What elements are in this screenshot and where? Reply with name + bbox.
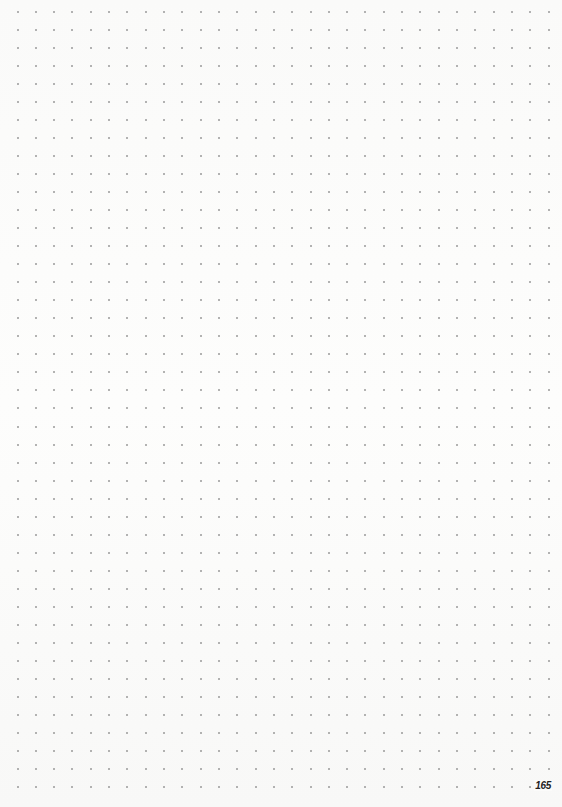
- grid-dot: [273, 768, 275, 770]
- grid-dot: [53, 119, 55, 121]
- grid-dot: [511, 660, 513, 662]
- grid-dot: [529, 191, 531, 193]
- grid-dot: [53, 353, 55, 355]
- grid-dot: [273, 83, 275, 85]
- grid-dot: [255, 588, 257, 590]
- grid-dot: [17, 209, 19, 211]
- grid-dot: [236, 155, 238, 157]
- grid-dot: [163, 426, 165, 428]
- grid-dot: [310, 227, 312, 229]
- grid-dot: [17, 552, 19, 554]
- grid-dot: [383, 335, 385, 337]
- grid-dot: [126, 317, 128, 319]
- grid-dot: [529, 642, 531, 644]
- grid-dot: [401, 768, 403, 770]
- grid-dot: [145, 281, 147, 283]
- grid-dot: [273, 11, 275, 13]
- grid-dot: [529, 714, 531, 716]
- grid-dot: [364, 335, 366, 337]
- grid-dot: [53, 245, 55, 247]
- grid-dot: [419, 353, 421, 355]
- grid-dot: [90, 768, 92, 770]
- grid-dot: [126, 624, 128, 626]
- grid-dot: [364, 462, 366, 464]
- grid-dot: [548, 65, 550, 67]
- grid-dot: [71, 353, 73, 355]
- grid-dot: [364, 768, 366, 770]
- grid-dot: [90, 480, 92, 482]
- grid-dot: [53, 155, 55, 157]
- grid-dot: [419, 768, 421, 770]
- grid-dot: [310, 498, 312, 500]
- grid-dot: [291, 227, 293, 229]
- grid-dot: [548, 480, 550, 482]
- grid-dot: [474, 29, 476, 31]
- grid-dot: [493, 155, 495, 157]
- grid-dot: [273, 227, 275, 229]
- grid-dot: [126, 191, 128, 193]
- grid-dot: [17, 444, 19, 446]
- grid-dot: [126, 426, 128, 428]
- grid-dot: [255, 227, 257, 229]
- grid-dot: [236, 263, 238, 265]
- grid-dot: [383, 29, 385, 31]
- grid-dot: [126, 750, 128, 752]
- grid-dot: [419, 389, 421, 391]
- grid-dot: [35, 317, 37, 319]
- grid-dot: [17, 101, 19, 103]
- grid-dot: [383, 642, 385, 644]
- grid-dot: [236, 209, 238, 211]
- grid-dot: [364, 534, 366, 536]
- grid-dot: [328, 696, 330, 698]
- grid-dot: [273, 371, 275, 373]
- grid-dot: [383, 732, 385, 734]
- grid-dot: [71, 714, 73, 716]
- grid-dot: [273, 137, 275, 139]
- grid-dot: [53, 299, 55, 301]
- grid-dot: [163, 335, 165, 337]
- grid-dot: [145, 371, 147, 373]
- grid-dot: [200, 137, 202, 139]
- grid-dot: [53, 750, 55, 752]
- grid-dot: [108, 407, 110, 409]
- grid-dot: [35, 552, 37, 554]
- grid-dot: [456, 516, 458, 518]
- grid-dot: [145, 173, 147, 175]
- grid-dot: [218, 552, 220, 554]
- grid-dot: [438, 389, 440, 391]
- grid-dot: [71, 786, 73, 788]
- grid-dot: [383, 660, 385, 662]
- grid-dot: [163, 209, 165, 211]
- grid-dot: [255, 119, 257, 121]
- grid-dot: [310, 47, 312, 49]
- grid-dot: [346, 83, 348, 85]
- grid-dot: [218, 480, 220, 482]
- grid-dot: [529, 29, 531, 31]
- grid-dot: [163, 750, 165, 752]
- grid-dot: [218, 65, 220, 67]
- grid-dot: [181, 155, 183, 157]
- grid-dot: [181, 119, 183, 121]
- grid-dot: [145, 498, 147, 500]
- grid-dot: [17, 281, 19, 283]
- grid-dot: [346, 678, 348, 680]
- grid-dot: [273, 335, 275, 337]
- grid-dot: [218, 11, 220, 13]
- grid-dot: [419, 642, 421, 644]
- grid-dot: [71, 11, 73, 13]
- grid-dot: [236, 606, 238, 608]
- grid-dot: [291, 498, 293, 500]
- grid-dot: [511, 570, 513, 572]
- grid-dot: [438, 47, 440, 49]
- grid-dot: [71, 335, 73, 337]
- grid-dot: [17, 588, 19, 590]
- grid-dot: [163, 786, 165, 788]
- grid-dot: [236, 750, 238, 752]
- grid-dot: [145, 480, 147, 482]
- grid-dot: [364, 47, 366, 49]
- grid-dot: [200, 444, 202, 446]
- grid-dot: [71, 624, 73, 626]
- grid-dot: [17, 768, 19, 770]
- grid-dot: [456, 101, 458, 103]
- grid-dot: [511, 137, 513, 139]
